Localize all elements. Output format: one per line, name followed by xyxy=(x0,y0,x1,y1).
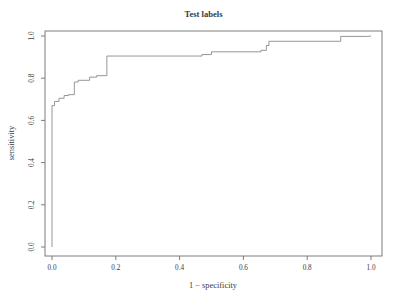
y-axis-ticks: 0.00.20.40.60.81.0 xyxy=(28,31,45,251)
y-tick-label: 0.8 xyxy=(28,73,36,82)
plot-frame-box xyxy=(45,31,382,256)
roc-plot-container: Test labels 0.00.20.40.60.81.0 0.00.20.4… xyxy=(0,0,407,295)
roc-chart-svg: Test labels 0.00.20.40.60.81.0 0.00.20.4… xyxy=(0,0,407,295)
y-axis-title: sensitivity xyxy=(7,125,16,160)
x-axis-title: 1 − specificity xyxy=(189,281,238,290)
x-axis-ticks: 0.00.20.40.60.81.0 xyxy=(48,256,376,272)
x-tick-label: 0.2 xyxy=(111,264,120,272)
x-tick-label: 0.8 xyxy=(303,264,312,272)
roc-curve-line xyxy=(52,36,371,247)
x-tick-label: 0.4 xyxy=(175,264,184,272)
y-tick-label: 0.4 xyxy=(28,158,36,167)
x-tick-label: 1.0 xyxy=(367,264,376,272)
chart-title: Test labels xyxy=(184,9,223,19)
y-tick-label: 1.0 xyxy=(28,31,36,40)
y-tick-label: 0.6 xyxy=(28,116,36,125)
x-tick-label: 0.6 xyxy=(239,264,248,272)
x-tick-label: 0.0 xyxy=(48,264,57,272)
y-tick-label: 0.0 xyxy=(28,242,36,251)
y-tick-label: 0.2 xyxy=(28,200,36,209)
